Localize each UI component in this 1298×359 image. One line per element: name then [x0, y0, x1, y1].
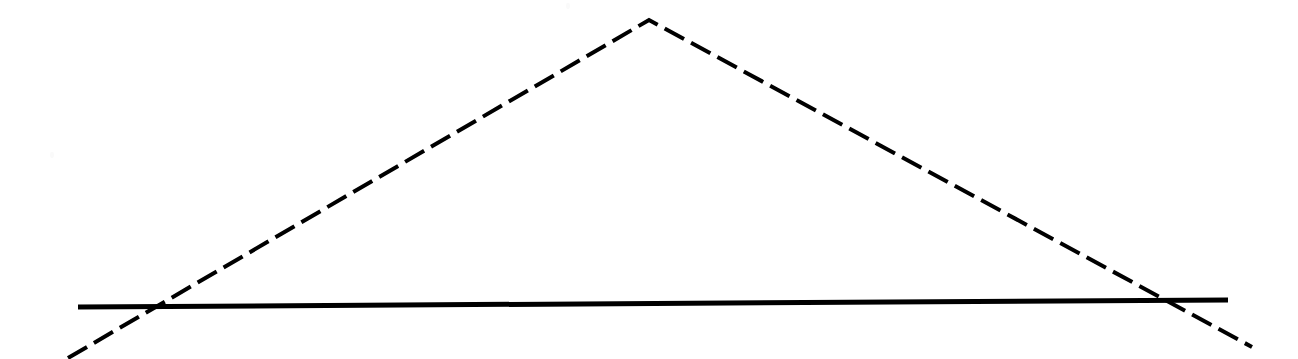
scan-speck-top — [566, 3, 570, 9]
figure-canvas — [0, 0, 1298, 359]
line-figure-svg — [0, 0, 1298, 359]
scan-speck-left — [50, 152, 54, 158]
